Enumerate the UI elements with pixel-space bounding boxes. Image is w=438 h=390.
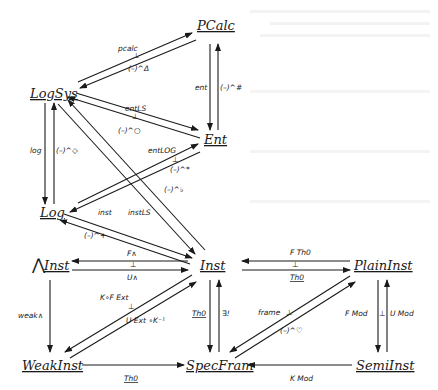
label-ent: ent: [195, 83, 208, 92]
adjoint-and: ⊥: [130, 260, 137, 269]
label-th0-bottom: Th0: [124, 374, 138, 383]
node-pcalc: PCalc: [196, 18, 236, 33]
label-inst-ls: instLS: [128, 208, 151, 217]
label-sharp: (–)^#: [220, 83, 242, 92]
arrow-heart: [235, 282, 355, 358]
commutative-diagram: PCalc LogSys Ent Log ⋀ Inst Inst PlainIn…: [0, 0, 438, 390]
node-plaininst: PlainInst: [353, 258, 413, 273]
label-ent-log: entLOG: [148, 146, 176, 155]
label-exists-unique: ∃!: [222, 309, 230, 318]
label-f-mod: F Mod: [345, 309, 368, 318]
label-u-and: U∧: [127, 273, 138, 282]
node-inst: Inst: [199, 258, 226, 273]
label-th0-left: Th0: [192, 309, 206, 318]
adjoint-ext: ⊥: [128, 302, 135, 311]
node-ent: Ent: [203, 132, 228, 147]
label-u-mod: U Mod: [390, 309, 414, 318]
label-log: log: [30, 146, 42, 155]
label-f-and: F∧: [127, 249, 137, 258]
adjoint-ent-log: ⊥: [172, 155, 179, 164]
adjoint-mod: ⊥: [379, 309, 386, 318]
label-star: (–)^*: [170, 165, 190, 174]
node-semiinst: SemiInst: [356, 358, 415, 373]
adjoint-th0: ⊥: [292, 260, 299, 269]
node-specfram: SpecFram: [186, 358, 254, 373]
node-logsys: LogSys: [29, 86, 78, 101]
arrow-k-f-ext: [65, 275, 192, 352]
label-plus: (–)^+: [84, 231, 106, 240]
adjoint-ent-ls: ⊥: [132, 112, 139, 121]
arrow-star: [70, 152, 200, 212]
label-delta: (–)^Δ: [128, 64, 149, 73]
node-weakinst: WeakInst: [22, 358, 84, 373]
label-flat: (–)^♭: [164, 185, 183, 194]
label-k-mod: K Mod: [290, 374, 313, 383]
label-heart: (–)^♡: [280, 326, 303, 335]
adjoint-frame: ⊥: [286, 308, 293, 317]
label-circ: (–)^○: [118, 126, 141, 135]
label-weak-and: weak∧: [18, 311, 43, 320]
adjoint-pcalc: ⊥: [133, 51, 140, 60]
label-inst: inst: [98, 208, 113, 217]
node-log: Log: [39, 205, 65, 220]
label-diamond: (–)^◇: [56, 146, 78, 155]
node-and-inst: Inst: [43, 258, 70, 273]
label-u-ext-k: U Ext ∘K⁻¹: [126, 316, 165, 325]
arrow-flat: [68, 100, 205, 250]
label-k-f-ext: K∘F Ext: [100, 293, 129, 302]
label-f-th0: F Th0: [290, 248, 311, 257]
label-th0-top: Th0: [290, 273, 304, 282]
background-text-bleed: [250, 10, 430, 203]
label-frame: frame: [258, 308, 281, 317]
